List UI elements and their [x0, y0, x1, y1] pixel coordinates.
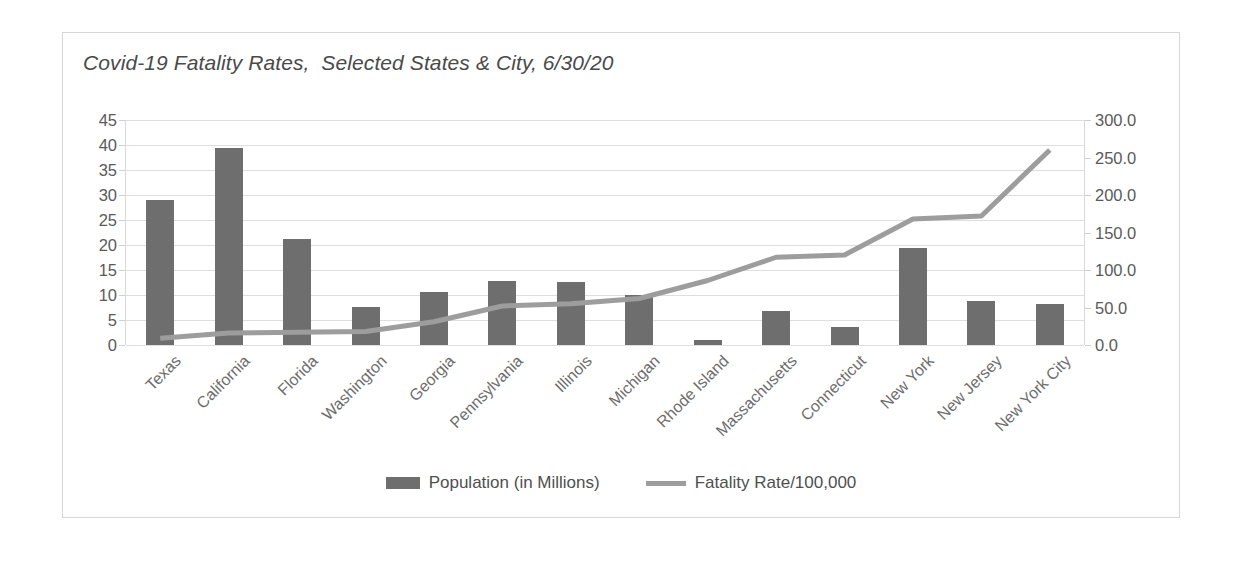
y-axis-right-tick-label: 200.0	[1095, 186, 1136, 205]
x-axis-tick-label: Washington	[318, 352, 390, 424]
y-axis-right-tick-label: 250.0	[1095, 148, 1136, 167]
plot-area	[126, 120, 1084, 345]
y-axis-left-tick-label: 40	[99, 136, 117, 155]
chart-screenshot: Covid-19 Fatality Rates, Selected States…	[0, 0, 1246, 580]
x-axis-tick-label: New York	[877, 352, 938, 413]
y-axis-left-tick-label: 15	[99, 261, 117, 280]
chart-legend: Population (in Millions)Fatality Rate/10…	[63, 473, 1179, 493]
y-axis-right-tick-label: 50.0	[1095, 298, 1127, 317]
x-axis-tick-label: Michigan	[606, 352, 664, 410]
legend-item[interactable]: Fatality Rate/100,000	[646, 473, 857, 493]
y-axis-left-tick-mark	[119, 320, 125, 321]
x-axis-tick-label: Georgia	[406, 352, 459, 405]
y-axis-left-tick-label: 5	[108, 311, 117, 330]
x-axis-labels: TexasCaliforniaFloridaWashingtonGeorgiaP…	[126, 346, 1084, 486]
line-path	[160, 150, 1050, 338]
y-axis-left-tick-label: 25	[99, 211, 117, 230]
legend-label: Fatality Rate/100,000	[695, 473, 857, 493]
x-axis-tick-label: California	[193, 352, 254, 413]
y-axis-right-tick-mark	[1085, 345, 1091, 346]
legend-bar-swatch-icon	[386, 477, 420, 489]
y-axis-right-tick-mark	[1085, 270, 1091, 271]
y-axis-left-tick-label: 35	[99, 161, 117, 180]
y-axis-left-tick-mark	[119, 295, 125, 296]
y-axis-left-tick-label: 30	[99, 186, 117, 205]
y-axis-left-tick-mark	[119, 245, 125, 246]
fatality-rate-line-series	[126, 120, 1084, 345]
x-axis-tick-label: Pennsylvania	[447, 352, 527, 432]
y-axis-left-tick-mark	[119, 170, 125, 171]
x-axis-tick-label: Connecticut	[797, 352, 869, 424]
y-axis-left-tick-mark	[119, 345, 125, 346]
y-axis-right-tick-label: 0.0	[1095, 336, 1118, 355]
chart-container: Covid-19 Fatality Rates, Selected States…	[62, 32, 1180, 518]
y-axis-left-tick-label: 45	[99, 111, 117, 130]
y-axis-right-tick-mark	[1085, 195, 1091, 196]
y-axis-left-tick-label: 20	[99, 236, 117, 255]
y-axis-left-tick-mark	[119, 120, 125, 121]
y-axis-right-labels: 300.0250.0200.0150.0100.050.00.0	[1095, 120, 1175, 345]
legend-label: Population (in Millions)	[429, 473, 600, 493]
x-axis-tick-label: Texas	[143, 352, 185, 394]
y-axis-right-tick-mark	[1085, 158, 1091, 159]
y-axis-right-tick-mark	[1085, 233, 1091, 234]
y-axis-left-tick-label: 10	[99, 286, 117, 305]
y-axis-right-tick-label: 300.0	[1095, 111, 1136, 130]
y-axis-left-tick-mark	[119, 270, 125, 271]
y-axis-right-tick-label: 150.0	[1095, 223, 1136, 242]
x-axis-tick-label: Florida	[274, 352, 321, 399]
y-axis-left-tick-mark	[119, 145, 125, 146]
y-axis-right-tick-mark	[1085, 308, 1091, 309]
y-axis-left-tick-mark	[119, 220, 125, 221]
legend-line-swatch-icon	[646, 481, 686, 486]
y-axis-right-tick-mark	[1085, 120, 1091, 121]
legend-item[interactable]: Population (in Millions)	[386, 473, 600, 493]
x-axis-tick-label: Illinois	[551, 352, 595, 396]
x-axis-tick-label: New Jersey	[934, 352, 1006, 424]
y-axis-right-tick-label: 100.0	[1095, 261, 1136, 280]
chart-title: Covid-19 Fatality Rates, Selected States…	[83, 51, 614, 75]
y-axis-left-labels: 454035302520151050	[63, 120, 117, 345]
y-axis-left-tick-label: 0	[108, 336, 117, 355]
y-axis-left-tick-mark	[119, 195, 125, 196]
